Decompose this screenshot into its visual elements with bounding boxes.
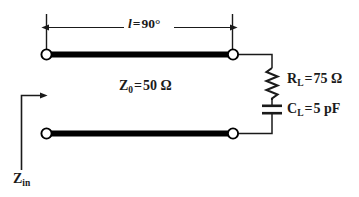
input-impedance-label: Zin <box>13 172 30 188</box>
load-capacitance-label: CL=5 pF <box>287 102 340 118</box>
length-value: 90 <box>141 16 155 31</box>
top-right-terminal <box>228 49 238 59</box>
rl-symbol: R <box>287 71 297 86</box>
length-unit: ° <box>155 16 160 31</box>
cl-symbol: C <box>287 101 297 116</box>
capacitor-parallel-plate-icon <box>262 106 282 113</box>
cl-unit: pF <box>324 101 340 116</box>
z0-symbol: Z <box>119 78 128 93</box>
load-resistance-label: RL=75 Ω <box>287 72 342 88</box>
rl-value: 75 <box>313 71 327 86</box>
resistor-zigzag-icon <box>267 68 278 100</box>
characteristic-impedance-label: Z0=50 Ω <box>119 79 172 95</box>
rl-operator: = <box>303 71 313 86</box>
z0-value: 50 <box>143 78 157 93</box>
cl-value: 5 <box>313 101 320 116</box>
rl-unit: Ω <box>331 71 342 86</box>
z0-unit: Ω <box>161 78 172 93</box>
zin-symbol: Z <box>13 171 22 186</box>
input-impedance-arrow <box>22 96 41 171</box>
figure-canvas: l=90° Z0=50 Ω RL=75 Ω CL=5 pF Zin <box>0 0 359 197</box>
circuit-schematic <box>0 0 359 197</box>
zin-subscript: in <box>22 178 30 188</box>
length-operator: = <box>132 16 142 31</box>
top-left-terminal <box>41 49 51 59</box>
length-label: l=90° <box>128 17 160 31</box>
bottom-left-terminal <box>41 128 51 138</box>
cl-operator: = <box>303 101 313 116</box>
load-network-wiring <box>233 55 272 134</box>
bottom-right-terminal <box>228 128 238 138</box>
z0-operator: = <box>133 78 143 93</box>
